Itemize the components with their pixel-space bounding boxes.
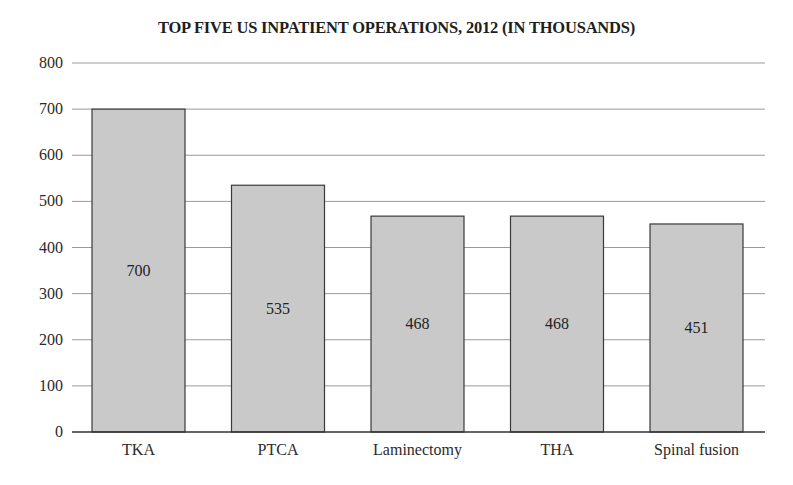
y-tick-label: 0 [55, 423, 63, 440]
value-label: 535 [266, 300, 290, 317]
y-tick-label: 800 [39, 54, 63, 71]
y-tick-label: 400 [39, 239, 63, 256]
y-tick-label: 600 [39, 146, 63, 163]
x-tick-label: PTCA [258, 441, 299, 458]
value-label: 468 [406, 315, 430, 332]
y-tick-label: 100 [39, 377, 63, 394]
value-label: 700 [127, 262, 151, 279]
x-tick-label: Spinal fusion [654, 441, 739, 459]
y-tick-label: 200 [39, 331, 63, 348]
y-tick-label: 500 [39, 192, 63, 209]
y-tick-label: 700 [39, 100, 63, 117]
x-axis-labels: TKAPTCALaminectomyTHASpinal fusion [122, 441, 739, 459]
y-tick-label: 300 [39, 285, 63, 302]
x-tick-label: TKA [122, 441, 155, 458]
x-tick-label: Laminectomy [373, 441, 462, 459]
bar-chart: 0100200300400500600700800 70053546846845… [0, 0, 793, 485]
value-label: 468 [545, 315, 569, 332]
bars: 700535468468451 [92, 109, 743, 432]
y-axis-ticks: 0100200300400500600700800 [39, 54, 63, 440]
value-label: 451 [685, 319, 709, 336]
x-tick-label: THA [541, 441, 574, 458]
